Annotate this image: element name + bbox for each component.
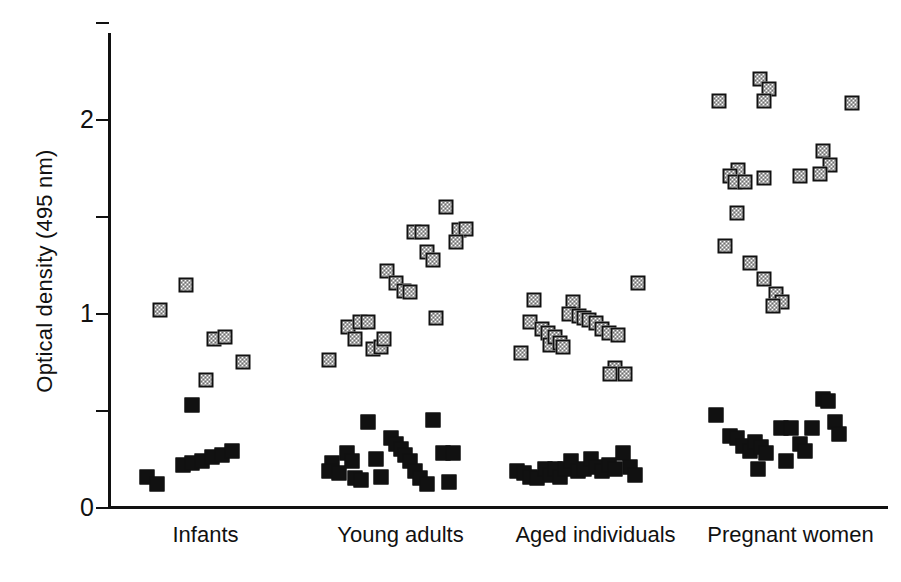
data-point-filled-square: [832, 426, 847, 441]
data-point-filled-square: [224, 444, 239, 459]
data-point-hatched-square: [360, 314, 375, 329]
data-point-filled-square: [354, 473, 369, 488]
data-point-filled-square: [445, 446, 460, 461]
data-point-hatched-square: [555, 339, 570, 354]
x-axis-label-3: Pregnant women: [707, 524, 873, 546]
data-point-filled-square: [798, 444, 813, 459]
data-point-hatched-square: [729, 206, 744, 221]
data-point-hatched-square: [377, 331, 392, 346]
data-point-hatched-square: [611, 328, 626, 343]
data-point-filled-square: [419, 477, 434, 492]
x-axis-label-1: Young adults: [337, 524, 463, 546]
data-point-filled-square: [344, 454, 359, 469]
data-point-filled-square: [608, 461, 623, 476]
data-point-hatched-square: [513, 345, 528, 360]
data-point-filled-square: [778, 454, 793, 469]
data-point-hatched-square: [765, 299, 780, 314]
scatter-plot-area: 012 InfantsYoung adultsAged individualsP…: [0, 0, 901, 582]
data-point-hatched-square: [152, 302, 167, 317]
data-point-hatched-square: [414, 225, 429, 240]
x-axis-line: [108, 506, 888, 509]
data-point-filled-square: [708, 407, 723, 422]
data-point-hatched-square: [718, 238, 733, 253]
data-point-hatched-square: [630, 275, 645, 290]
data-point-hatched-square: [426, 252, 441, 267]
data-point-filled-square: [627, 467, 642, 482]
y-axis-tick-label: 0: [56, 495, 94, 520]
y-axis-tick: [96, 410, 109, 412]
x-axis-category-labels: InfantsYoung adultsAged individualsPregn…: [108, 524, 888, 560]
data-point-hatched-square: [218, 330, 233, 345]
data-point-filled-square: [750, 461, 765, 476]
y-axis-tick-label: 1: [56, 301, 94, 326]
data-point-filled-square: [804, 421, 819, 436]
data-point-hatched-square: [845, 95, 860, 110]
y-axis-line: [108, 33, 111, 509]
data-point-hatched-square: [742, 256, 757, 271]
data-point-filled-square: [820, 393, 835, 408]
data-point-hatched-square: [711, 93, 726, 108]
data-point-hatched-square: [347, 331, 362, 346]
data-point-filled-square: [442, 475, 457, 490]
data-point-hatched-square: [448, 235, 463, 250]
data-point-hatched-square: [235, 355, 250, 370]
data-point-filled-square: [426, 413, 441, 428]
data-point-hatched-square: [439, 200, 454, 215]
y-axis-title: Optical density (495 nm): [32, 106, 58, 436]
y-axis-tick: [96, 313, 109, 315]
chart-figure: 012 InfantsYoung adultsAged individualsP…: [0, 0, 901, 582]
data-point-filled-square: [185, 397, 200, 412]
data-point-filled-square: [783, 421, 798, 436]
data-point-hatched-square: [321, 353, 336, 368]
data-point-filled-square: [373, 469, 388, 484]
data-point-hatched-square: [812, 167, 827, 182]
data-point-hatched-square: [757, 271, 772, 286]
data-point-filled-square: [149, 477, 164, 492]
data-point-hatched-square: [737, 175, 752, 190]
data-point-hatched-square: [403, 285, 418, 300]
data-point-hatched-square: [617, 366, 632, 381]
y-axis-tick: [96, 119, 109, 121]
data-point-filled-square: [360, 415, 375, 430]
data-point-filled-square: [369, 452, 384, 467]
data-point-hatched-square: [793, 169, 808, 184]
data-point-hatched-square: [757, 171, 772, 186]
data-point-hatched-square: [526, 293, 541, 308]
y-axis-tick-label: 2: [56, 107, 94, 132]
data-point-filled-square: [759, 446, 774, 461]
y-axis-tick: [96, 22, 109, 24]
data-point-hatched-square: [603, 366, 618, 381]
data-point-hatched-square: [429, 310, 444, 325]
x-axis-label-0: Infants: [172, 524, 238, 546]
data-point-hatched-square: [198, 372, 213, 387]
data-point-hatched-square: [757, 93, 772, 108]
y-axis-tick: [96, 216, 109, 218]
x-axis-label-2: Aged individuals: [515, 524, 675, 546]
data-point-hatched-square: [178, 277, 193, 292]
